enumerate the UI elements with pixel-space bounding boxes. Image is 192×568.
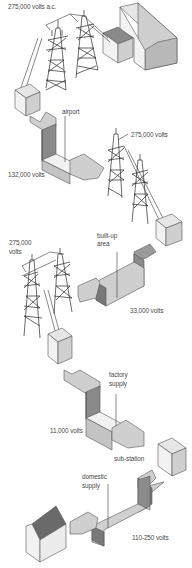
label-substation: sub-station (114, 455, 145, 462)
sub-station (158, 438, 186, 476)
transformer-1 (15, 84, 40, 116)
label-builtup-2: area (97, 240, 110, 247)
power-station (103, 3, 177, 70)
label-275kv-right: 275,000 volts (131, 131, 168, 138)
pylon-pair-middle (108, 128, 164, 224)
label-factory-2: supply (109, 380, 128, 388)
label-builtup-1: built-up (97, 232, 118, 240)
label-275kv-ac: 275,000 volts a.c. (8, 3, 57, 10)
label-275kv-left-1: 275,000 (9, 239, 32, 246)
label-275kv-left-2: volts (9, 248, 22, 255)
label-33kv: 33,000 volts (130, 307, 163, 314)
label-110-250v: 110-250 volts (132, 534, 169, 541)
power-distribution-diagram: 275,000 volts a.c. airport 132,000 volts… (0, 0, 192, 568)
label-factory-1: factory (109, 371, 128, 379)
label-132kv: 132,000 volts (8, 171, 45, 178)
transformer-3 (48, 328, 72, 364)
transformer-2 (156, 214, 182, 246)
label-airport: airport (62, 108, 80, 116)
label-11kv: 11,000 volts (50, 427, 83, 434)
factory-supply-arrow (64, 370, 144, 450)
label-domestic-1: domestic (82, 473, 108, 480)
label-domestic-2: supply (82, 482, 101, 490)
house (26, 506, 66, 562)
pylon-pair-lower (22, 248, 72, 338)
